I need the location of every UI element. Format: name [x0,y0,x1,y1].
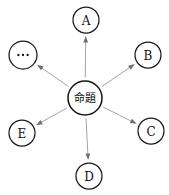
edge-center-to-c [103,107,136,124]
node-b-label: B [144,49,153,63]
node-d[interactable]: D [76,163,102,189]
arrow-head-icon [130,119,137,124]
ellipsis-dot-icon-3 [26,54,28,56]
arrow-head-icon [36,120,43,125]
ellipsis-dot-icon-1 [17,54,19,56]
arrow-head-icon [85,153,90,160]
center-node-label: 命題 [74,91,97,105]
nodes-layer: ABCDE命題 [9,7,164,189]
edge-center-to-a [83,36,88,78]
node-d-label: D [84,170,94,184]
node-e-label: E [18,127,27,141]
node-ellipsis[interactable] [9,41,37,69]
arrow-head-icon [128,64,135,70]
arrow-head-icon [37,65,44,71]
node-a[interactable]: A [73,7,99,33]
node-a-label: A [81,14,91,28]
ellipsis-dot-icon-2 [22,54,24,56]
node-e[interactable]: E [9,120,35,146]
center-node-proposition[interactable]: 命題 [68,81,102,115]
diagram-canvas: ABCDE命題 [0,0,169,195]
radial-proposition-diagram: ABCDE命題 [0,0,169,195]
edge-center-to-e [36,108,67,125]
node-b[interactable]: B [135,42,161,68]
edge-center-to-d [85,118,90,160]
edge-center-to-ellipsis [37,65,68,87]
edge-center-to-b [102,64,135,86]
arrow-head-icon [83,36,88,43]
node-c[interactable]: C [138,118,164,144]
node-c-label: C [146,125,155,139]
